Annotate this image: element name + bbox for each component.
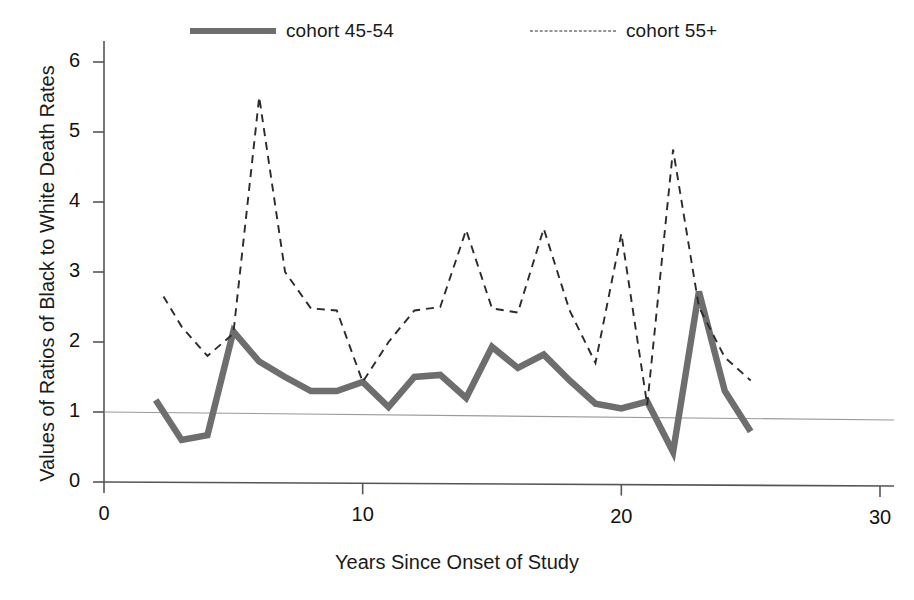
x-tick-label: 20	[601, 505, 641, 528]
data-series-layer	[156, 97, 751, 452]
x-axis-spine	[104, 482, 894, 486]
x-tick-label: 30	[860, 506, 900, 529]
x-tick-label: 10	[343, 503, 383, 526]
x-axis-title: Years Since Onset of Study	[0, 551, 914, 574]
y-axis-title: Values of Ratios of Black to White Death…	[36, 44, 59, 504]
plot-area: 0123456 0102030	[0, 0, 914, 600]
unity-reference-line	[104, 412, 894, 420]
axes-layer	[93, 41, 894, 497]
reference-line-layer	[104, 412, 894, 420]
x-tick-label: 0	[84, 502, 124, 525]
series-line-cohort-55-plus	[163, 97, 750, 405]
plot-svg	[0, 0, 914, 600]
chart-figure: cohort 45-54 cohort 55+ 0123456 0102030 …	[0, 0, 914, 600]
series-line-cohort-45-54	[156, 292, 751, 452]
